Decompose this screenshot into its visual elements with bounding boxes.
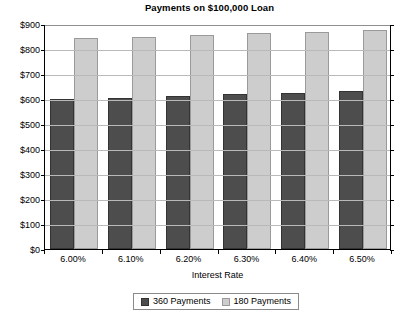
y-axis-tick-label: $0: [0, 246, 40, 255]
y-axis-tick-label: $500: [0, 121, 40, 130]
y-axis-labels: $0$100$200$300$400$500$600$700$800$900: [0, 25, 40, 250]
gridline: [45, 125, 390, 126]
x-axis-tick: [275, 250, 276, 254]
y-axis-tick-right: [390, 50, 394, 51]
y-axis-tick-label: $600: [0, 96, 40, 105]
legend-label: 180 Payments: [234, 297, 292, 306]
legend-label: 360 Payments: [153, 297, 211, 306]
y-axis-tick-right: [390, 100, 394, 101]
gridline: [45, 225, 390, 226]
gridline: [45, 100, 390, 101]
legend-swatch-180-payments: [222, 298, 230, 306]
chart-title: Payments on $100,000 Loan: [0, 2, 419, 13]
y-axis-tick-right: [390, 25, 394, 26]
y-axis-tick-right: [390, 75, 394, 76]
y-axis-tick-label: $200: [0, 196, 40, 205]
y-axis-tick: [41, 75, 45, 76]
chart-legend: 360 Payments 180 Payments: [133, 293, 299, 310]
y-axis-tick: [41, 100, 45, 101]
gridline: [45, 50, 390, 51]
y-axis-tick: [41, 175, 45, 176]
x-axis-tick-label: 6.50%: [349, 254, 375, 264]
y-axis-tick: [41, 25, 45, 26]
bar-180-payments-6.50%: [363, 30, 387, 249]
y-axis-tick-label: $700: [0, 71, 40, 80]
x-axis-tick: [391, 250, 392, 254]
x-axis-labels: 6.00%6.10%6.20%6.30%6.40%6.50%: [44, 254, 391, 268]
gridline: [45, 75, 390, 76]
bar-180-payments-6.10%: [132, 37, 156, 250]
y-axis-tick-right: [390, 150, 394, 151]
bar-180-payments-6.30%: [247, 33, 271, 249]
legend-item[interactable]: 360 Payments: [141, 297, 211, 306]
x-axis-tick: [102, 250, 103, 254]
bar-180-payments-6.00%: [74, 38, 98, 249]
gridline: [45, 150, 390, 151]
legend-swatch-360-payments: [141, 298, 149, 306]
chart-container: Payments on $100,000 Loan $0$100$200$300…: [0, 0, 419, 321]
y-axis-tick-right: [390, 200, 394, 201]
y-axis-tick-label: $300: [0, 171, 40, 180]
y-axis-tick-label: $400: [0, 146, 40, 155]
y-axis-tick: [41, 200, 45, 201]
bar-180-payments-6.40%: [305, 32, 329, 250]
bar-360-payments-6.20%: [166, 96, 190, 249]
y-axis-tick-label: $100: [0, 221, 40, 230]
x-axis-tick: [333, 250, 334, 254]
plot-area: [44, 25, 391, 250]
y-axis-tick-right: [390, 175, 394, 176]
gridline: [45, 175, 390, 176]
x-axis-tick: [160, 250, 161, 254]
x-axis-tick-label: 6.20%: [176, 254, 202, 264]
bars-layer: [45, 25, 390, 249]
y-axis-tick-label: $900: [0, 21, 40, 30]
bar-180-payments-6.20%: [190, 35, 214, 249]
y-axis-tick: [41, 225, 45, 226]
y-axis-tick: [41, 150, 45, 151]
y-axis-tick-right: [390, 125, 394, 126]
gridline: [45, 200, 390, 201]
x-axis-tick-label: 6.00%: [60, 254, 86, 264]
bar-360-payments-6.10%: [108, 98, 132, 250]
x-axis-tick: [218, 250, 219, 254]
y-axis-tick-right: [390, 225, 394, 226]
x-axis-tick-label: 6.40%: [291, 254, 317, 264]
y-axis-tick: [41, 125, 45, 126]
y-axis-tick: [41, 50, 45, 51]
x-axis-tick-label: 6.30%: [234, 254, 260, 264]
y-axis-tick-label: $800: [0, 46, 40, 55]
bar-360-payments-6.00%: [50, 99, 74, 249]
x-axis-title: Interest Rate: [44, 270, 391, 280]
x-axis-tick-label: 6.10%: [118, 254, 144, 264]
legend-item[interactable]: 180 Payments: [222, 297, 292, 306]
gridline: [45, 25, 390, 26]
x-axis-tick: [44, 250, 45, 254]
